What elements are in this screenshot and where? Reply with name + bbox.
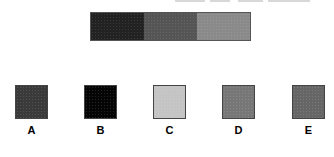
strip-segment-light (197, 13, 250, 40)
top-text-fragment (175, 0, 205, 2)
top-text-fragment (210, 0, 230, 2)
shade-strip (90, 12, 251, 41)
option-label-e: E (292, 124, 325, 136)
option-swatch-d[interactable] (222, 85, 255, 119)
top-text-fragment (238, 0, 263, 2)
strip-segment-medium (144, 13, 197, 40)
option-label-c: C (153, 124, 186, 136)
option-swatch-c[interactable] (153, 85, 186, 119)
option-swatch-a[interactable] (15, 85, 48, 119)
option-label-d: D (222, 124, 255, 136)
option-swatch-e[interactable] (292, 85, 325, 119)
top-text-fragment (268, 0, 310, 2)
option-label-a: A (15, 124, 48, 136)
option-label-b: B (84, 124, 117, 136)
option-swatch-b[interactable] (84, 85, 117, 119)
strip-segment-dark (91, 13, 144, 40)
